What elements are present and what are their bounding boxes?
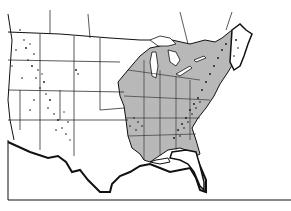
state-borders-west bbox=[8, 34, 128, 156]
shaded-eastern-region bbox=[118, 26, 246, 162]
us-map bbox=[0, 0, 291, 211]
new-england bbox=[230, 24, 252, 70]
lake-superior bbox=[150, 36, 176, 46]
west-coast bbox=[8, 14, 14, 140]
stipple-rockies bbox=[11, 29, 78, 141]
canada-border bbox=[8, 32, 150, 40]
canada-province-lines bbox=[50, 10, 232, 44]
